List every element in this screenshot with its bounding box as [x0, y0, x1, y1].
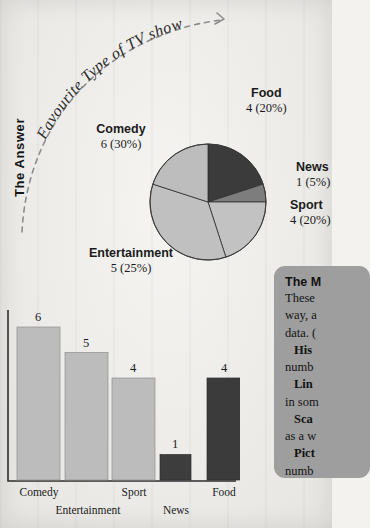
note-box-line: way, a [285, 307, 360, 324]
bar-value-sport: 4 [113, 361, 153, 376]
note-box-line: These [285, 290, 360, 307]
pie-label-entertainment: Entertainment 5 (25%) [56, 246, 206, 276]
note-box-line: Lin [285, 376, 360, 393]
pie-label-comedy-value: 6 (30%) [66, 137, 176, 152]
bar-category-entertainment: Entertainment [40, 504, 136, 516]
note-box-line: numb [285, 359, 360, 376]
note-box-line: Sca [285, 411, 360, 428]
pie-label-entertainment-value: 5 (25%) [56, 261, 206, 276]
bar-entertainment [65, 353, 108, 481]
pie-label-news-value: 1 (5%) [296, 175, 330, 190]
pie-label-entertainment-name: Entertainment [56, 246, 206, 261]
bar-chart: 6 5 4 1 4 Comedy Entertainment Sport New… [0, 296, 240, 528]
note-box-line: numb [285, 463, 360, 479]
note-box-line: as a w [285, 428, 360, 445]
pie-label-comedy: Comedy 6 (30%) [66, 122, 176, 152]
note-box-line: Pict [285, 445, 360, 462]
bar-value-food: 4 [204, 361, 244, 376]
pie-label-food: Food 4 (20%) [246, 86, 287, 116]
pie-label-news-name: News [296, 160, 330, 175]
pie-label-food-name: Food [246, 86, 287, 101]
note-box-line: in som [285, 394, 360, 411]
bar-category-food: Food [196, 486, 252, 498]
note-box-line: His [285, 342, 360, 359]
bar-category-sport: Sport [104, 486, 164, 498]
bar-category-comedy: Comedy [8, 486, 70, 498]
arrow-head-icon [215, 13, 224, 24]
bar-value-news: 1 [155, 437, 195, 452]
bar-comedy [17, 327, 60, 480]
pie-label-sport-name: Sport [290, 198, 331, 213]
pie-label-comedy-name: Comedy [66, 122, 176, 137]
bar-category-news: News [148, 504, 204, 516]
pie-label-food-value: 4 (20%) [246, 101, 287, 116]
bar-food [207, 378, 240, 480]
note-box: The M These way, a data. ( His numb Lin … [274, 266, 370, 478]
pie-label-sport: Sport 4 (20%) [290, 198, 331, 228]
bar-value-entertainment: 5 [66, 336, 106, 351]
side-tab-the-answer: The Answer [12, 103, 27, 213]
bar-news [160, 455, 191, 481]
note-box-title: The M [285, 275, 360, 289]
pie-label-news: News 1 (5%) [296, 160, 330, 190]
bar-value-comedy: 6 [18, 310, 58, 325]
bar-sport [112, 378, 155, 480]
note-box-line: data. ( [285, 325, 360, 342]
pie-label-sport-value: 4 (20%) [290, 213, 331, 228]
